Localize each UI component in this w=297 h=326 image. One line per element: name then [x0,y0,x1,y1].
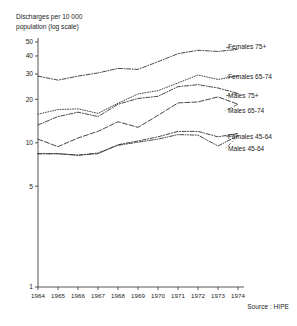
x-tick-label: 1964 [31,292,45,299]
x-tick-label: 1969 [131,292,145,299]
series-line-females-65-74 [38,75,238,114]
series-line-males-65-74 [38,97,238,147]
series-line-males-45-64 [38,135,238,156]
line-chart-plot: 5040302010511964196519661967196819691970… [0,0,297,300]
series-label-females-75-: Females 75+ [228,43,266,50]
series-label-males-75-: Males 75+ [228,92,259,99]
y-tick-label: 20 [26,96,34,103]
y-tick-label: 40 [26,52,34,59]
series-label-females-45-64: Females 45-64 [228,133,272,140]
series-label-males-65-74: Males 65-74 [228,107,265,114]
x-tick-label: 1971 [171,292,185,299]
x-tick-label: 1974 [231,292,245,299]
x-tick-label: 1970 [151,292,165,299]
y-axis-title: Discharges per 10 000 population (log sc… [16,12,82,31]
series-line-females-45-64 [38,131,238,155]
series-label-males-45-64: Males 45-64 [228,145,265,152]
y-tick-label: 1 [29,283,33,290]
y-tick-label: 5 [29,183,33,190]
x-tick-label: 1966 [71,292,85,299]
y-tick-label: 50 [26,38,34,45]
series-line-males-75- [38,85,238,125]
series-line-females-75- [38,49,238,80]
x-tick-label: 1967 [91,292,105,299]
x-tick-label: 1965 [51,292,65,299]
y-tick-label: 30 [26,70,34,77]
x-tick-label: 1968 [111,292,125,299]
x-tick-label: 1973 [211,292,225,299]
source-note: Source : HIPE [247,303,289,310]
chart-figure: Discharges per 10 000 population (log sc… [0,0,297,326]
x-tick-label: 1972 [191,292,205,299]
y-tick-label: 10 [26,139,34,146]
series-label-females-65-74: Females 65-74 [228,73,272,80]
